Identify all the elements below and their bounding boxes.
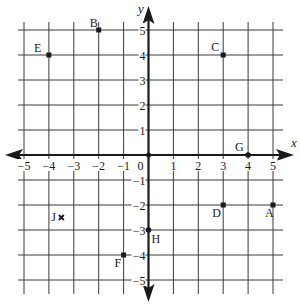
y-tick-label: 1: [140, 124, 146, 138]
x-axis-label: x: [290, 135, 297, 150]
y-tick-label: 2: [140, 99, 146, 113]
plotted-points: ABCDEFGHJ: [34, 16, 276, 270]
x-tick-label: −2: [92, 159, 105, 173]
y-axis-label: y: [136, 1, 144, 16]
x-tick-label: 4: [245, 159, 251, 173]
coordinate-plane: xy −5−4−3−2−101234554321−1−2−3−4−5 ABCDE…: [0, 0, 300, 308]
point-marker-dot: [146, 227, 152, 233]
y-tick-label: −1: [133, 174, 146, 188]
x-tick-label: 2: [195, 159, 201, 173]
x-tick-label: −5: [18, 159, 31, 173]
point-label-j: J: [51, 210, 56, 224]
x-tick-label: 3: [220, 159, 226, 173]
point-marker-dot: [245, 152, 251, 158]
point-marker-square: [221, 53, 226, 58]
x-tick-label: 0: [138, 159, 144, 173]
origin-dot: [146, 153, 151, 158]
point-label-g: G: [235, 140, 244, 154]
x-tick-label: −3: [67, 159, 80, 173]
point-marker-x-icon: [59, 215, 64, 220]
point-marker-square: [221, 203, 226, 208]
y-tick-label: −5: [133, 274, 146, 288]
grid-lines: [18, 22, 283, 294]
point-label-a: A: [265, 206, 274, 220]
y-tick-label: −4: [133, 249, 146, 263]
x-tick-label: 5: [270, 159, 276, 173]
point-label-h: H: [152, 232, 161, 246]
point-label-e: E: [34, 41, 41, 55]
point-label-b: B: [90, 16, 98, 30]
x-tick-label: −1: [117, 159, 130, 173]
y-tick-label: 5: [140, 24, 146, 38]
y-tick-label: 4: [140, 49, 146, 63]
point-label-c: C: [211, 40, 219, 54]
point-label-d: D: [212, 206, 221, 220]
y-tick-label: 3: [140, 74, 146, 88]
y-tick-label: −3: [133, 224, 146, 238]
x-tick-label: 1: [170, 159, 176, 173]
x-tick-label: −4: [43, 159, 56, 173]
point-label-f: F: [115, 256, 122, 270]
y-tick-label: −2: [133, 199, 146, 213]
point-marker-square: [121, 253, 126, 258]
point-marker-square: [46, 53, 51, 58]
